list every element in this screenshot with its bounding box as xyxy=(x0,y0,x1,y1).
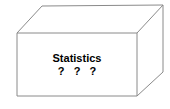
diagram-canvas: Statistics ? ? ? xyxy=(0,0,170,109)
cuboid-illustration xyxy=(0,0,170,109)
box-front-face xyxy=(17,33,137,96)
